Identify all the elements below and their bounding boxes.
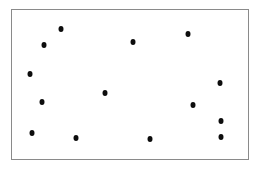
data-point [147,136,152,142]
data-point [185,31,190,37]
data-point [103,90,108,96]
data-point [218,80,223,86]
data-point [27,71,32,77]
data-point [219,134,224,140]
data-point [74,135,79,141]
data-point [219,118,224,124]
data-point [191,102,196,108]
plot-frame-border [11,9,249,160]
data-point [131,39,136,45]
data-point [39,99,44,105]
plot-area [12,10,248,159]
scatter-plot-figure [0,0,262,171]
data-point [41,42,46,48]
data-point [58,26,63,32]
data-point [29,130,34,136]
